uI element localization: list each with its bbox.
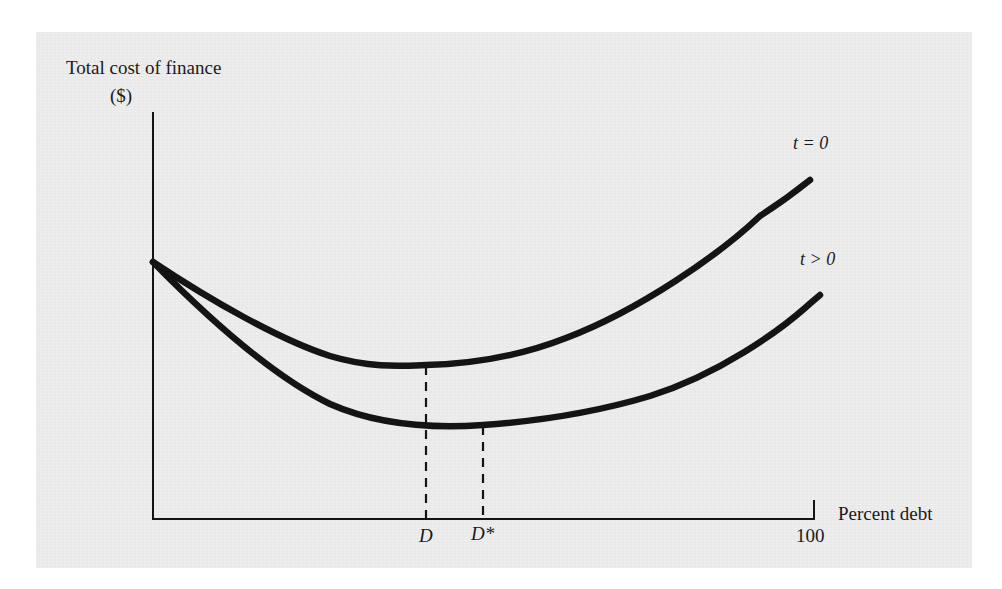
curve-label-t-greater-0: t > 0 [800, 250, 835, 269]
x-axis-label: Percent debt [838, 504, 932, 524]
figure-page: Total cost of finance ($) Percent debt 1… [0, 0, 1002, 589]
y-axis-label: Total cost of finance [66, 58, 221, 78]
plot-canvas [0, 0, 1002, 589]
curve-t-equals-0 [153, 180, 810, 366]
x-axis-marker-label-d: D [419, 526, 433, 546]
curve-t-greater-0 [153, 262, 820, 426]
x-axis-marker-label-d-star: D* [471, 524, 494, 544]
y-axis-unit-label: ($) [110, 86, 132, 106]
curve-label-t-equals-0: t = 0 [793, 134, 828, 153]
x-axis-tick-label-100: 100 [796, 526, 825, 546]
